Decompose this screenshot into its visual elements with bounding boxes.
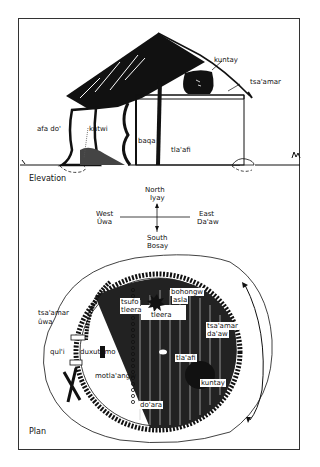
label-plan-tsufo-tleera: tleera <box>120 306 142 314</box>
compass-north-local: Iyay <box>150 194 165 202</box>
label-elevation-baqa: baqa <box>138 137 155 145</box>
label-elevation-tla-afi: tla'afi <box>171 146 191 154</box>
label-plan-duxutamo: duxutamo <box>80 348 116 356</box>
label-elevation-kuntay: kuntay <box>214 56 238 64</box>
label-elevation-tsa-amar: tsa'amar <box>250 78 281 86</box>
label-plan-bohongw: bohongw <box>170 288 204 296</box>
compass-south: South <box>147 234 167 242</box>
label-elevation-kutwi: kutwi <box>89 125 108 133</box>
elevation-drawing <box>20 33 300 172</box>
label-plan-tsa-amar-uwa: tsa'amar <box>38 309 69 317</box>
elevation-section-label: Elevation <box>29 175 66 183</box>
plan-drawing <box>43 255 272 443</box>
compass-west: West <box>96 210 113 218</box>
label-plan-motla-angw: motla'angw <box>95 372 136 380</box>
label-plan-do-ara: do'ara <box>139 401 163 409</box>
label-plan-tleera: tleera <box>150 311 172 319</box>
label-plan-kuntay: kuntay <box>200 379 226 387</box>
label-elevation-afa-do: afa do' <box>37 125 61 133</box>
compass-east: East <box>199 210 214 218</box>
label-plan-uwa: ûwa <box>38 318 52 326</box>
plan-section-label: Plan <box>29 428 46 436</box>
compass-east-local: Da'aw <box>197 218 219 226</box>
label-plan-daaw: da'aw <box>206 330 229 338</box>
label-plan-tsufo: tsufo <box>120 298 140 306</box>
label-plan-tsa-amar-daaw: tsa'amar <box>206 322 239 330</box>
compass-north: North <box>145 186 165 194</box>
label-plan-qul-i: qul'i <box>50 348 65 356</box>
compass-rose-drawing <box>120 203 190 232</box>
compass-south-local: Bosay <box>147 242 168 250</box>
label-plan-tla-afi: tla'afi <box>175 354 197 362</box>
label-plan-asla: asla <box>172 296 188 304</box>
compass-west-local: Ûwa <box>97 218 112 226</box>
